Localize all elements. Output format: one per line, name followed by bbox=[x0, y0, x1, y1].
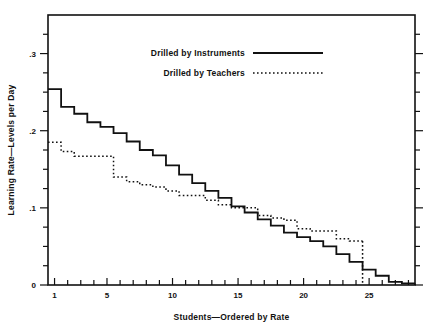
chart-figure: 0.1.2.31510152025Students—Ordered by Rat… bbox=[0, 0, 435, 329]
x-axis-tick-label: 5 bbox=[105, 291, 110, 300]
x-axis-tick-label: 25 bbox=[365, 291, 374, 300]
y-axis-tick-label: .2 bbox=[29, 127, 36, 136]
legend-label-1: Drilled by Teachers bbox=[163, 68, 245, 78]
x-axis-tick-label: 15 bbox=[234, 291, 243, 300]
y-axis-title: Learning Rate—Levels per Day bbox=[6, 85, 16, 216]
x-axis-tick-label: 10 bbox=[168, 291, 177, 300]
x-axis-title: Students—Ordered by Rate bbox=[174, 312, 290, 322]
legend-label-0: Drilled by Instruments bbox=[151, 48, 245, 58]
y-axis-tick-label: .3 bbox=[29, 50, 36, 59]
x-axis-tick-label: 20 bbox=[299, 291, 308, 300]
x-axis-tick-label: 1 bbox=[52, 291, 57, 300]
y-axis-tick-label: 0 bbox=[32, 281, 37, 290]
y-axis-tick-label: .1 bbox=[29, 204, 36, 213]
step-chart-svg: 0.1.2.31510152025Students—Ordered by Rat… bbox=[0, 0, 435, 329]
